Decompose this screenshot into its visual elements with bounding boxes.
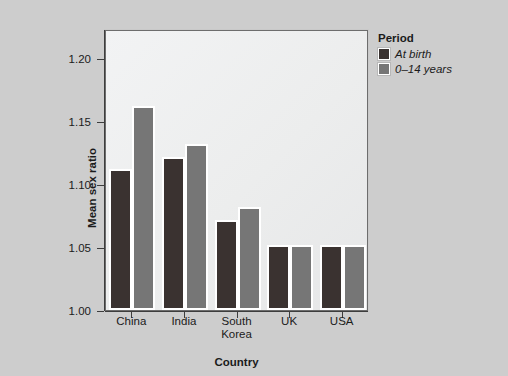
bar-uk-series-0 [267,245,290,310]
y-axis-tick [97,248,104,249]
x-axis-line [105,311,368,312]
y-axis-tick-label: 1.05 [0,242,91,254]
y-axis-line [104,30,105,311]
x-axis-tick-label: South Korea [221,315,252,340]
plot-area [105,30,368,311]
bar-china-series-1 [132,106,155,310]
bar-chart-figure: Mean sex ratio Country Period At birth0–… [0,0,508,376]
y-axis-tick-label: 1.00 [0,305,91,317]
x-axis-tick-label: UK [281,315,297,328]
bar-usa-series-1 [343,245,366,310]
bar-china-series-0 [109,169,132,310]
y-axis-tick [97,311,104,312]
x-axis-tick-label: USA [330,315,354,328]
y-axis-tick-label: 1.15 [0,116,91,128]
y-axis-tick [97,185,104,186]
bar-south-korea-series-0 [215,220,238,310]
legend-item: At birth [378,48,502,60]
legend-swatch-icon [378,63,390,75]
x-axis-title: Country [105,356,368,368]
legend-entries: At birth0–14 years [378,48,502,75]
bar-india-series-0 [162,157,185,310]
y-axis-tick-label: 1.10 [0,179,91,191]
bar-uk-series-1 [290,245,313,310]
legend-title: Period [378,32,502,44]
legend: Period At birth0–14 years [378,32,502,78]
x-axis-tick-label: India [171,315,196,328]
bar-south-korea-series-1 [238,207,261,310]
bar-usa-series-0 [320,245,343,310]
y-axis-tick-label: 1.20 [0,53,91,65]
legend-swatch-icon [378,48,390,60]
legend-item: 0–14 years [378,63,502,75]
legend-item-label: 0–14 years [395,63,452,75]
y-axis-tick [97,122,104,123]
y-axis-tick [97,59,104,60]
legend-item-label: At birth [395,48,431,60]
x-axis-tick-label: China [116,315,146,328]
bar-india-series-1 [185,144,208,310]
bars-container [106,31,367,310]
